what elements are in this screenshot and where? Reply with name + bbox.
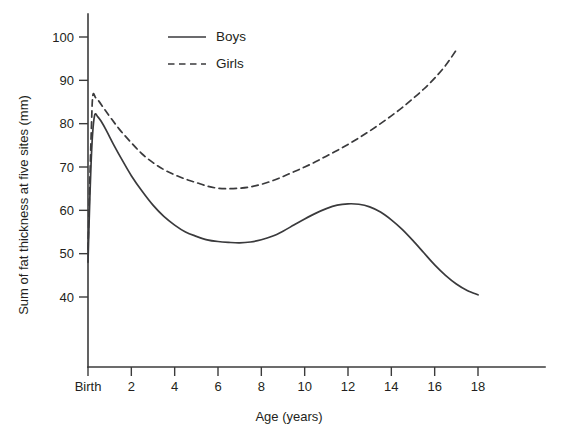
y-tick-label: 80 (60, 116, 74, 131)
x-tick-label: 10 (297, 379, 311, 394)
y-axis-title: Sum of fat thickness at five sites (mm) (16, 95, 31, 315)
x-tick-label: 2 (128, 379, 135, 394)
y-axis-ticks: 405060708090100 (52, 30, 88, 305)
data-series (88, 50, 478, 295)
legend-label-girls: Girls (216, 56, 244, 71)
x-tick-label: 6 (214, 379, 221, 394)
x-tick-label: 18 (471, 379, 485, 394)
y-tick-label: 50 (60, 246, 74, 261)
x-tick-label: 12 (341, 379, 355, 394)
x-axis-title: Age (years) (255, 409, 322, 424)
y-tick-label: 100 (52, 30, 74, 45)
chart-figure: 405060708090100 Birth24681012141618 Boys… (0, 0, 578, 430)
line-chart: 405060708090100 Birth24681012141618 Boys… (0, 0, 578, 430)
chart-legend: BoysGirls (168, 29, 246, 71)
x-tick-label: 4 (171, 379, 178, 394)
x-tick-label: Birth (75, 379, 102, 394)
x-tick-label: 8 (258, 379, 265, 394)
x-axis-ticks: Birth24681012141618 (75, 367, 486, 394)
y-tick-label: 90 (60, 73, 74, 88)
series-line-boys (88, 114, 478, 295)
y-tick-label: 60 (60, 203, 74, 218)
x-tick-label: 16 (427, 379, 441, 394)
y-tick-label: 70 (60, 160, 74, 175)
axes (88, 14, 545, 367)
y-tick-label: 40 (60, 290, 74, 305)
legend-label-boys: Boys (216, 29, 246, 44)
x-tick-label: 14 (384, 379, 398, 394)
series-line-girls (88, 50, 456, 249)
